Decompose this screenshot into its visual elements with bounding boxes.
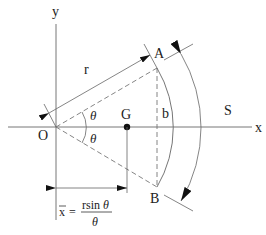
y-axis-label: y — [52, 4, 59, 19]
r-dimension-line — [49, 55, 150, 113]
formula-denominator: θ — [92, 215, 98, 229]
formula-numerator-r: rsin — [82, 198, 103, 212]
formula-lhs: x — [59, 205, 65, 219]
s-extension-b — [164, 195, 193, 211]
radius-label: r — [84, 62, 89, 77]
r-extension-o — [44, 104, 56, 127]
s-dimension-arc — [181, 54, 201, 201]
formula-equals: = — [69, 205, 76, 219]
theta-upper-label: θ — [90, 108, 97, 123]
centroid-arc-diagram: x y θ θ r S O A B b G x = rsin θ θ — [0, 0, 266, 235]
formula-numerator: rsin θ — [82, 198, 109, 212]
radius-line-ob — [56, 127, 157, 187]
x-axis-label: x — [255, 120, 262, 135]
centroid-formula: x = rsin θ θ — [59, 198, 112, 229]
origin-label: O — [38, 128, 48, 143]
angle-arc — [82, 112, 86, 143]
theta-lower-label: θ — [90, 131, 97, 146]
radius-line-oa — [56, 68, 157, 127]
point-b-label: B — [150, 191, 159, 206]
s-extension-a — [164, 44, 193, 60]
chord-label: b — [162, 106, 169, 121]
arc-length-label: S — [224, 103, 232, 118]
point-a-label: A — [154, 46, 165, 61]
formula-numerator-theta: θ — [103, 198, 109, 212]
arc-ab — [157, 68, 173, 187]
centroid-label: G — [121, 107, 131, 122]
